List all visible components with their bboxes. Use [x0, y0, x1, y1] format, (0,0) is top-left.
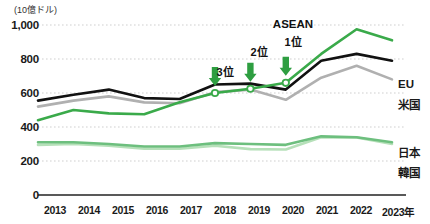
x-tick-2013: 2013: [44, 204, 66, 216]
series-label-japan: 日本: [398, 144, 420, 160]
x-tick-2020: 2020: [282, 204, 304, 216]
y-tick-400: 400: [0, 121, 39, 133]
chart-container: (10億ドル) 1,000 800 600 400 200 0 2013 201…: [0, 0, 430, 224]
y-tick-0: 0: [0, 189, 39, 201]
series-label-korea: 韓国: [398, 164, 420, 180]
annotation-rank3: 3位: [216, 63, 233, 79]
x-tick-2021: 2021: [316, 204, 338, 216]
x-tick-2023: 2023年: [382, 204, 414, 219]
y-tick-600: 600: [0, 87, 39, 99]
x-tick-2022: 2022: [350, 204, 372, 216]
x-tick-2018: 2018: [214, 204, 236, 216]
y-tick-1000: 1,000: [0, 19, 39, 31]
x-tick-2015: 2015: [112, 204, 134, 216]
x-tick-2014: 2014: [78, 204, 100, 216]
annotation-rank2: 2位: [250, 43, 267, 59]
plot-area: [0, 0, 430, 224]
annotation-rank1: 1位: [284, 33, 301, 49]
series-label-eu: EU: [398, 78, 414, 90]
y-tick-200: 200: [0, 155, 39, 167]
annotation-asean-title: ASEAN: [273, 18, 313, 30]
x-tick-2017: 2017: [180, 204, 202, 216]
series-label-us: 米国: [398, 96, 420, 112]
y-tick-800: 800: [0, 53, 39, 65]
x-tick-2019: 2019: [248, 204, 270, 216]
x-tick-2016: 2016: [146, 204, 168, 216]
